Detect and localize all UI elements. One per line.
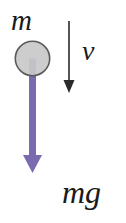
weight-label: mg (62, 176, 101, 208)
mass-circle (15, 41, 49, 75)
weight-vector-arrowhead (23, 155, 42, 173)
velocity-vector-arrowhead (64, 80, 75, 93)
velocity-vector (64, 21, 75, 93)
mass-label: m (11, 6, 32, 35)
free-body-diagram: m v mg (0, 0, 126, 223)
velocity-label: v (82, 37, 94, 65)
